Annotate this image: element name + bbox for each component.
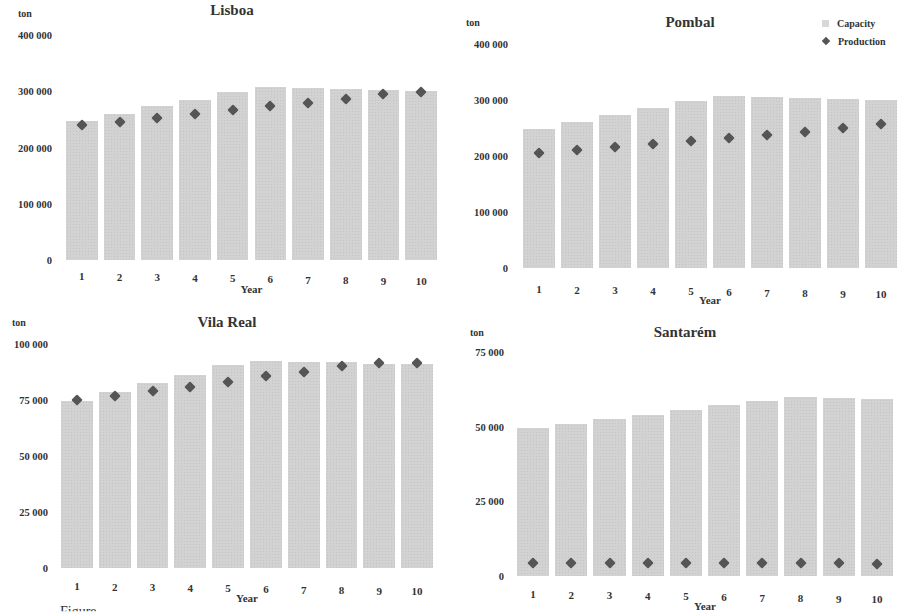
- capacity-bar: [212, 365, 244, 568]
- x-tick-label: 5: [225, 582, 231, 594]
- y-axis-unit: ton: [12, 317, 26, 328]
- y-tick-label: 300 000: [448, 95, 508, 106]
- y-tick-label: 25 000: [444, 496, 504, 507]
- y-tick-label: 75 000: [0, 395, 48, 406]
- capacity-bar: [632, 415, 664, 576]
- y-tick-label: 0: [0, 255, 52, 266]
- x-tick-label: 4: [188, 582, 194, 594]
- capacity-bar: [637, 108, 669, 268]
- y-tick-label: 75 000: [444, 347, 504, 358]
- x-tick-label: 5: [688, 285, 694, 297]
- y-axis-unit: ton: [466, 17, 480, 28]
- y-tick-label: 100 000: [0, 198, 52, 209]
- capacity-bar: [141, 106, 173, 260]
- legend-capacity-label: Capacity: [837, 18, 875, 29]
- x-tick-label: 6: [268, 273, 274, 285]
- capacity-bar: [746, 401, 778, 576]
- x-tick-label: 1: [79, 270, 85, 282]
- capacity-bar: [789, 98, 821, 268]
- capacity-bar: [179, 100, 211, 260]
- x-tick-label: 1: [74, 580, 80, 592]
- y-tick-label: 400 000: [448, 39, 508, 50]
- capacity-bar: [137, 383, 169, 568]
- x-tick-label: 3: [612, 284, 618, 296]
- x-tick-label: 8: [339, 584, 345, 596]
- capacity-bar: [217, 92, 249, 260]
- capacity-bar: [823, 398, 855, 576]
- capacity-bar: [104, 114, 136, 260]
- capacity-bar: [250, 361, 282, 568]
- x-tick-label: 4: [192, 272, 198, 284]
- capacity-bar: [292, 88, 324, 260]
- x-axis-label: Year: [241, 283, 263, 295]
- x-tick-label: 10: [412, 585, 423, 597]
- x-tick-label: 7: [305, 274, 311, 286]
- capacity-bar: [593, 419, 625, 576]
- x-tick-label: 8: [798, 592, 804, 604]
- y-tick-label: 0: [448, 263, 508, 274]
- x-tick-label: 9: [381, 275, 387, 287]
- capacity-bar: [784, 397, 816, 576]
- y-tick-label: 300 000: [0, 86, 52, 97]
- y-tick-label: 50 000: [0, 451, 48, 462]
- capacity-bar: [401, 364, 433, 568]
- y-tick-label: 400 000: [0, 30, 52, 41]
- chart-title: Pombal: [665, 14, 714, 31]
- x-tick-label: 7: [764, 287, 770, 299]
- capacity-bar: [330, 89, 362, 260]
- chart-title: Vila Real: [197, 314, 256, 331]
- capacity-bar: [675, 101, 707, 268]
- capacity-bar: [363, 364, 395, 568]
- capacity-bar: [599, 115, 631, 268]
- y-axis-unit: ton: [470, 327, 484, 338]
- y-tick-label: 200 000: [0, 142, 52, 153]
- capacity-bar: [368, 90, 400, 260]
- x-tick-label: 4: [645, 590, 651, 602]
- capacity-bar: [751, 97, 783, 268]
- x-tick-label: 5: [683, 590, 689, 602]
- x-tick-label: 8: [802, 287, 808, 299]
- capacity-bar: [555, 424, 587, 576]
- legend-item-production: Production: [822, 32, 886, 50]
- x-axis-label: Year: [699, 294, 721, 306]
- y-tick-label: 0: [444, 571, 504, 582]
- capacity-bar: [174, 375, 206, 568]
- x-tick-label: 9: [377, 585, 383, 597]
- capacity-bar: [405, 91, 437, 260]
- x-tick-label: 1: [530, 588, 536, 600]
- capacity-bar: [713, 96, 745, 268]
- legend-production-label: Production: [838, 36, 886, 47]
- x-tick-label: 9: [836, 593, 842, 605]
- production-diamond-icon: [822, 37, 830, 45]
- y-tick-label: 100 000: [448, 207, 508, 218]
- x-tick-label: 2: [112, 581, 118, 593]
- capacity-bar: [517, 428, 549, 576]
- x-tick-label: 6: [726, 286, 732, 298]
- capacity-bar: [66, 121, 98, 260]
- chart-title: Santarém: [654, 324, 717, 341]
- x-tick-label: 10: [871, 593, 882, 605]
- capacity-bar: [326, 362, 358, 568]
- chart-title: Lisboa: [210, 2, 253, 19]
- x-tick-label: 10: [416, 275, 427, 287]
- legend-item-capacity: Capacity: [822, 14, 886, 32]
- y-tick-label: 25 000: [0, 507, 48, 518]
- x-tick-label: 6: [721, 591, 727, 603]
- x-tick-label: 9: [840, 288, 846, 300]
- x-tick-label: 10: [876, 288, 887, 300]
- capacity-swatch-icon: [822, 20, 829, 27]
- x-axis-label: Year: [236, 592, 258, 604]
- x-tick-label: 7: [301, 584, 307, 596]
- capacity-bar: [670, 410, 702, 576]
- x-tick-label: 3: [155, 271, 161, 283]
- x-tick-label: 3: [150, 581, 156, 593]
- x-tick-label: 8: [343, 274, 349, 286]
- x-tick-label: 3: [607, 589, 613, 601]
- x-tick-label: 1: [536, 283, 542, 295]
- y-tick-label: 100 000: [0, 339, 48, 350]
- x-axis-label: Year: [694, 600, 716, 612]
- capacity-bar: [61, 401, 93, 568]
- x-tick-label: 5: [230, 272, 236, 284]
- y-tick-label: 0: [0, 563, 48, 574]
- capacity-bar: [288, 362, 320, 568]
